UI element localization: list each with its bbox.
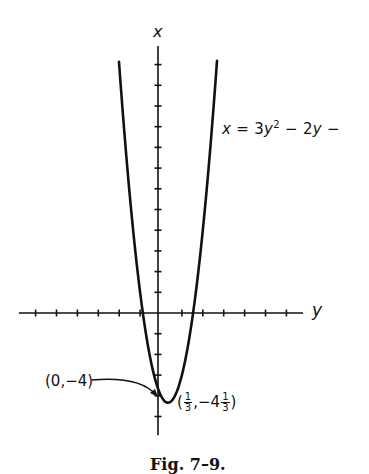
fraction: 13 <box>221 392 229 413</box>
eq-y: y <box>313 120 322 138</box>
eq-x: x <box>222 120 231 138</box>
denominator: 3 <box>221 403 229 413</box>
eq-part: − <box>322 120 340 138</box>
paren: ) <box>231 393 237 411</box>
eq-part: = 3 <box>231 120 264 138</box>
vertex-x: ,−4 <box>193 393 220 411</box>
eq-y: y <box>264 120 273 138</box>
point-label-y-intercept: (0,−4) <box>45 372 93 390</box>
eq-part: − 2 <box>280 120 313 138</box>
horizontal-axis-label: y <box>312 300 322 320</box>
figure-caption: Fig. 7–9. <box>150 455 226 474</box>
eq-exponent: 2 <box>273 119 280 130</box>
fraction: 13 <box>184 392 192 413</box>
equation-label: x = 3y2 − 2y − <box>222 119 340 138</box>
point-label-vertex: (13,−413) <box>177 392 236 413</box>
parabola-curve <box>119 61 217 403</box>
denominator: 3 <box>184 403 192 413</box>
paren: ( <box>177 393 183 411</box>
vertical-axis-label: x <box>153 22 162 41</box>
annotation-arrow <box>92 379 156 395</box>
